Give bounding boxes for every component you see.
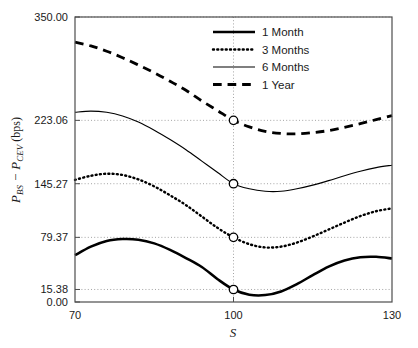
y-tick-label: 15.38: [40, 283, 68, 295]
x-tick-label: 100: [224, 309, 242, 321]
y-title-unit: (bps): [9, 117, 23, 145]
legend-label-3-months: 3 Months: [262, 44, 310, 56]
marker-point: [229, 180, 237, 188]
marker-point: [229, 116, 237, 124]
chart-figure: 0.0015.3879.37145.27223.06350.00 7010013…: [0, 0, 418, 348]
legend-label-6-months: 6 Months: [262, 61, 310, 73]
legend-label-1-year: 1 Year: [262, 79, 295, 91]
legend-label-1-month: 1 Month: [262, 26, 304, 38]
y-title-minus: −: [8, 170, 23, 185]
marker-point: [229, 233, 237, 241]
y-title-p-bs: P: [8, 195, 23, 204]
x-tick-label: 130: [383, 309, 401, 321]
y-tick-label: 145.27: [34, 178, 68, 190]
y-title-sub-cev: CEV: [15, 143, 25, 162]
plot-svg: 0.0015.3879.37145.27223.06350.00 7010013…: [0, 0, 418, 348]
y-tick-label: 0.00: [47, 296, 68, 308]
y-tick-label: 79.37: [40, 231, 68, 243]
x-axis-title: S: [230, 325, 237, 340]
svg-text:PBS − PCEV (bps): PBS − PCEV (bps): [8, 117, 25, 204]
y-title-p-cev: P: [8, 162, 23, 171]
y-axis-ticks: 0.0015.3879.37145.27223.06350.00: [34, 11, 80, 308]
marker-point: [229, 285, 237, 293]
y-tick-label: 223.06: [34, 114, 68, 126]
y-title-sub-bs: BS: [15, 184, 25, 194]
x-tick-label: 70: [69, 309, 81, 321]
y-tick-label: 350.00: [34, 11, 68, 23]
y-axis-title: PBS − PCEV (bps): [8, 117, 25, 204]
